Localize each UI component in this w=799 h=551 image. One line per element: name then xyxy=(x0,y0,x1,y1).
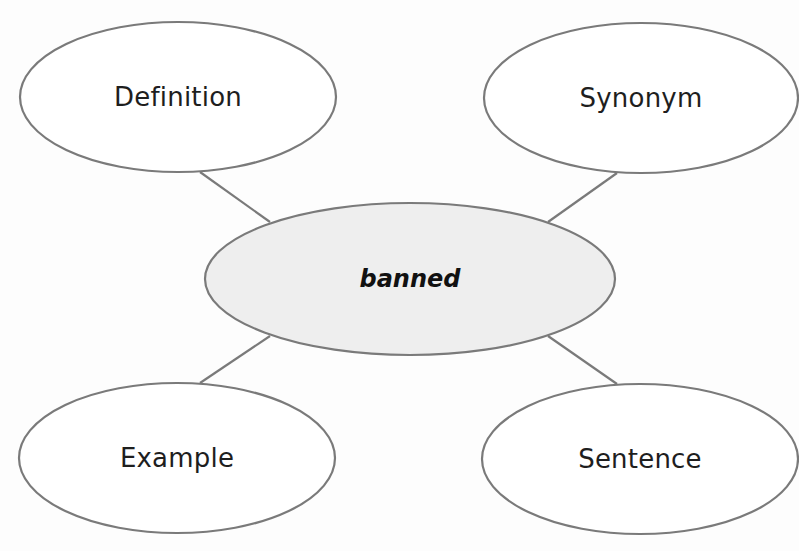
node-label: Synonym xyxy=(580,83,703,113)
node-example: Example xyxy=(19,383,335,533)
node-sentence: Sentence xyxy=(482,384,798,534)
node-synonym: Synonym xyxy=(484,23,798,173)
node-label: Example xyxy=(120,443,234,473)
center-word: banned xyxy=(359,265,460,293)
node-label: Sentence xyxy=(578,444,702,474)
node-center: banned xyxy=(205,203,615,355)
node-label: Definition xyxy=(114,82,242,112)
word-map-diagram: Definition Synonym Example Sentence bann… xyxy=(0,0,799,551)
node-definition: Definition xyxy=(20,22,336,172)
